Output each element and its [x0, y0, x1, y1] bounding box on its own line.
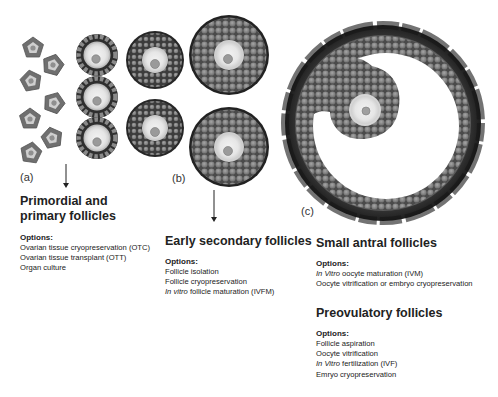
- primordial-follicle: [41, 52, 66, 77]
- panel-label-c: (c): [301, 205, 314, 217]
- stage-title: Primordial and primary follicles: [20, 194, 145, 224]
- primordial-follicle: [20, 108, 41, 128]
- options-heading: Options:: [316, 329, 496, 338]
- option-item: In vitro follicle maturation (IVFM): [165, 287, 315, 297]
- antral-follicle: [285, 25, 481, 221]
- oocyte-nucleus: [362, 107, 370, 115]
- primary-follicle: [76, 117, 118, 159]
- option-item: Follicle aspiration: [316, 339, 496, 349]
- option-item: Oocyte vitrification or embryo cryoprese…: [316, 279, 496, 289]
- stage-block-small-antral: Small antral follicles Options: In Vitro…: [316, 236, 496, 289]
- stage-title: Small antral follicles: [316, 236, 496, 251]
- option-item: Emryo cryopreservation: [316, 370, 496, 380]
- option-item: Organ culture: [20, 263, 170, 273]
- primordial-follicle: [41, 89, 68, 115]
- primordial-follicle: [19, 68, 43, 91]
- option-item: Ovarian tissue cryopreservation (OTC): [20, 243, 170, 253]
- arrow-b: [211, 190, 217, 222]
- primary-follicle: [76, 34, 118, 76]
- option-item: Follicle isolation: [165, 267, 315, 277]
- option-item: Follicle cryopreservation: [165, 277, 315, 287]
- primordial-follicle: [39, 125, 64, 149]
- option-item: In Vitro fertilization (IVF): [316, 359, 496, 369]
- secondary-follicle-small: [126, 31, 184, 89]
- secondary-follicle-small: [126, 99, 184, 157]
- primordial-follicles: [19, 37, 68, 163]
- primary-follicle: [76, 76, 118, 118]
- stage-block-primordial: Primordial and primary follicles Options…: [20, 194, 170, 274]
- secondary-follicles: [126, 15, 269, 187]
- primordial-follicle: [19, 141, 43, 164]
- options-heading: Options:: [316, 259, 496, 268]
- primary-follicles: [76, 34, 118, 159]
- options-heading: Options:: [165, 257, 315, 266]
- stage-block-early-secondary: Early secondary follicles Options: Folli…: [165, 234, 315, 298]
- stage-title: Preovulatory follicles: [316, 306, 496, 321]
- option-item: Ovarian tissue transplant (OTT): [20, 253, 170, 263]
- options-heading: Options:: [20, 233, 170, 242]
- arrow-a: [63, 164, 69, 188]
- option-item: In Vitro oocyte maturation (IVM): [316, 269, 496, 279]
- panel-label-a: (a): [20, 171, 33, 183]
- primordial-follicle: [23, 37, 44, 57]
- panel-label-b: (b): [172, 172, 185, 184]
- option-item: Oocyte vitrification: [316, 349, 496, 359]
- secondary-follicle-large: [189, 107, 269, 187]
- secondary-follicle-large: [189, 15, 269, 95]
- stage-block-preovulatory: Preovulatory follicles Options: Follicle…: [316, 306, 496, 380]
- stage-title: Early secondary follicles: [165, 234, 315, 249]
